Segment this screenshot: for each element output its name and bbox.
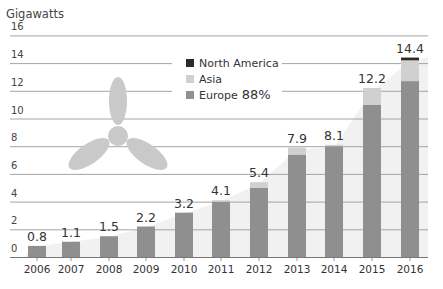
bar-segment-europe bbox=[175, 213, 193, 257]
bar-2014 bbox=[325, 145, 343, 257]
bar-2011 bbox=[212, 200, 230, 257]
y-tick-label: 14 bbox=[11, 49, 24, 60]
bar-segment-europe bbox=[28, 246, 46, 257]
value-label: 8.1 bbox=[324, 128, 344, 143]
bar-segment-europe bbox=[288, 155, 306, 257]
bar-segment-north-america bbox=[401, 58, 419, 61]
legend-label: Europe88% bbox=[199, 87, 271, 102]
bar-2007 bbox=[62, 242, 80, 257]
bar-segment-asia bbox=[212, 200, 230, 201]
bar-segment-europe bbox=[212, 202, 230, 257]
x-tick-label: 2009 bbox=[133, 263, 160, 275]
bar-2016 bbox=[401, 58, 419, 257]
x-tick-label: 2015 bbox=[359, 263, 386, 275]
legend: North AmericaAsiaEurope88% bbox=[172, 56, 282, 106]
y-tick-label: 10 bbox=[11, 105, 24, 116]
value-label: 3.2 bbox=[174, 196, 194, 211]
bar-segment-europe bbox=[100, 236, 118, 257]
wind-turbine-icon bbox=[64, 77, 173, 176]
value-label: 12.2 bbox=[358, 71, 386, 86]
bar-segment-europe bbox=[401, 81, 419, 257]
bar-segment-asia bbox=[363, 88, 381, 105]
x-tick-label: 2008 bbox=[96, 263, 123, 275]
value-label: 0.8 bbox=[27, 229, 47, 244]
bar-segment-asia bbox=[288, 148, 306, 155]
value-label: 1.1 bbox=[61, 225, 81, 240]
y-tick-label: 0 bbox=[11, 243, 17, 254]
bar-segment-europe bbox=[62, 242, 80, 257]
value-label: 1.5 bbox=[99, 219, 119, 234]
legend-swatch bbox=[186, 59, 194, 67]
legend-swatch bbox=[186, 75, 194, 83]
y-axis-ticks: 0246810121416 bbox=[11, 21, 24, 254]
legend-label: Asia bbox=[199, 73, 222, 86]
bar-segment-asia bbox=[250, 182, 268, 188]
chart: 0246810121416 20062007200820092010201120… bbox=[0, 0, 443, 289]
y-tick-label: 12 bbox=[11, 77, 24, 88]
x-tick-label: 2014 bbox=[321, 263, 348, 275]
x-axis-ticks: 2006200720082009201020112012201320142015… bbox=[24, 257, 424, 275]
value-label: 14.4 bbox=[396, 41, 424, 56]
bar-segment-asia bbox=[325, 145, 343, 146]
y-tick-label: 6 bbox=[11, 160, 17, 171]
value-label: 2.2 bbox=[136, 210, 156, 225]
x-tick-label: 2010 bbox=[171, 263, 198, 275]
x-tick-label: 2012 bbox=[246, 263, 273, 275]
bar-2006 bbox=[28, 246, 46, 257]
value-label: 5.4 bbox=[249, 165, 269, 180]
bar-segment-europe bbox=[325, 146, 343, 257]
value-label: 4.1 bbox=[211, 183, 231, 198]
x-tick-label: 2016 bbox=[397, 263, 424, 275]
bar-segment-asia bbox=[401, 60, 419, 81]
bar-2012 bbox=[250, 182, 268, 257]
bar-segment-europe bbox=[137, 227, 155, 257]
value-label: 7.9 bbox=[287, 131, 307, 146]
bar-2009 bbox=[137, 227, 155, 257]
legend-swatch bbox=[186, 91, 194, 99]
bar-segment-europe bbox=[363, 105, 381, 257]
bar-2015 bbox=[363, 88, 381, 257]
y-tick-label: 2 bbox=[11, 215, 17, 226]
y-axis-title: Gigawatts bbox=[6, 7, 64, 21]
bar-2013 bbox=[288, 148, 306, 257]
bar-2008 bbox=[100, 236, 118, 257]
y-tick-label: 8 bbox=[11, 132, 17, 143]
y-tick-label: 4 bbox=[11, 188, 17, 199]
x-tick-label: 2006 bbox=[24, 263, 51, 275]
y-tick-label: 16 bbox=[11, 21, 24, 32]
x-tick-label: 2013 bbox=[284, 263, 311, 275]
bar-segment-europe bbox=[250, 188, 268, 257]
x-tick-label: 2011 bbox=[208, 263, 235, 275]
x-tick-label: 2007 bbox=[58, 263, 85, 275]
legend-label: North America bbox=[199, 57, 279, 70]
bar-2010 bbox=[175, 213, 193, 257]
